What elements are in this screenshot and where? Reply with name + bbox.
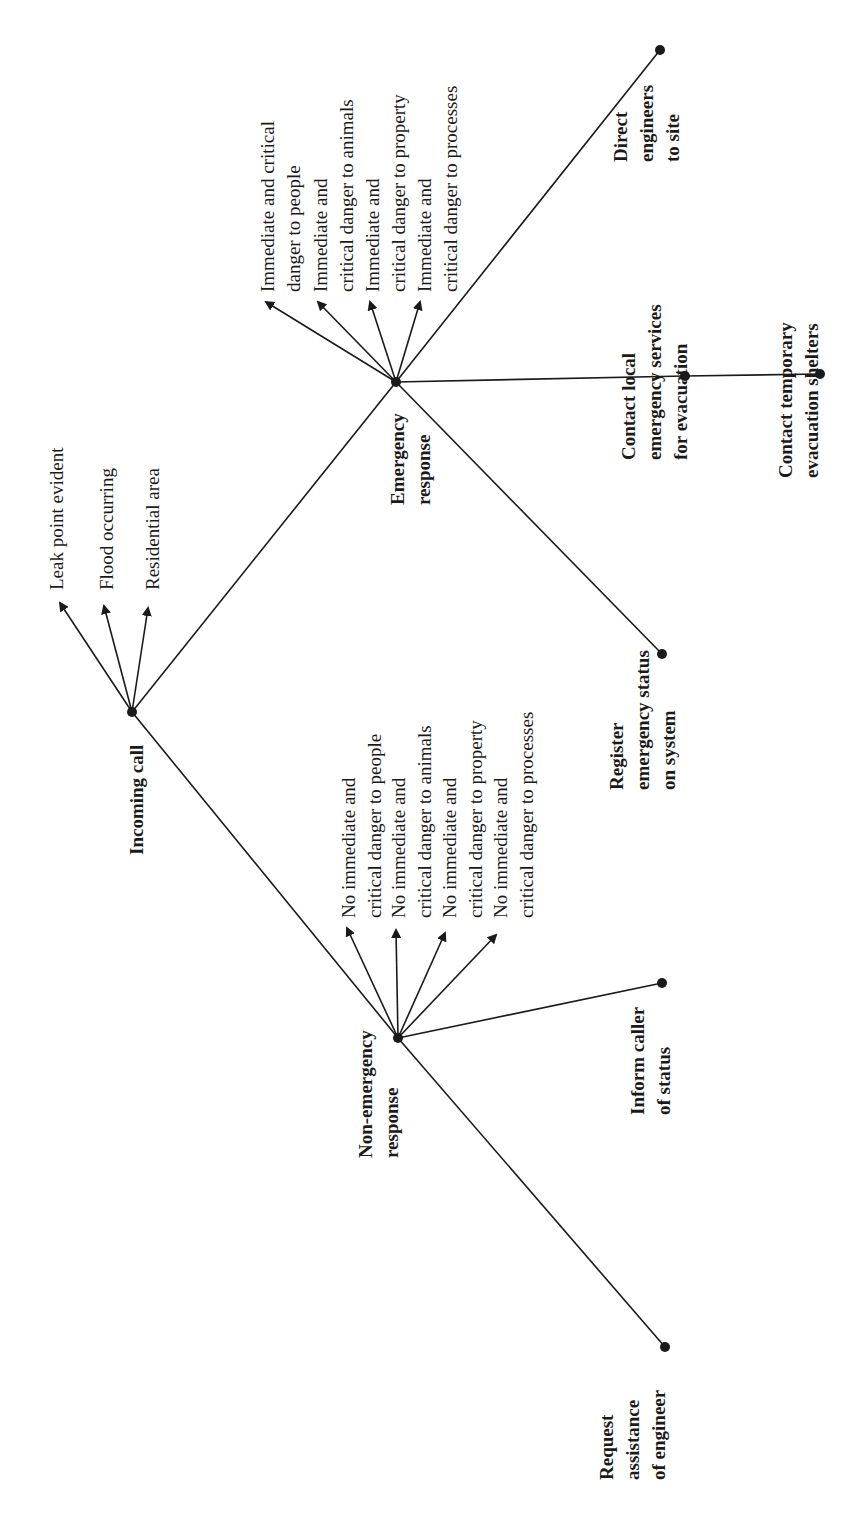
action-contact-shelters: Contact temporary evacuation shelters xyxy=(773,322,825,478)
emergency-condition-people: Immediate and critical danger to people xyxy=(255,121,307,292)
action-direct-engineers: Direct engineers to site xyxy=(608,85,686,162)
node-emergency xyxy=(391,377,401,387)
node-label-non-emergency: Non-emergency response xyxy=(353,1030,405,1158)
action-contact-local-services: Contact local emergency services for eva… xyxy=(616,304,694,460)
nonemergency-condition-animals: No immediate and critical danger to anim… xyxy=(386,725,438,918)
action-register-status: Register emergency status on system xyxy=(604,650,682,790)
nonemergency-condition-people: No immediate and critical danger to peop… xyxy=(336,734,388,918)
node-label-emergency: Emergency response xyxy=(385,413,437,505)
emergency-condition-processes: Immediate and critical danger to process… xyxy=(412,86,464,292)
node-label-incoming-call: Incoming call xyxy=(124,745,150,855)
condition-residential: Residential area xyxy=(140,468,166,590)
node-incoming-call xyxy=(127,707,137,717)
edge-root-emergency xyxy=(132,382,396,712)
condition-leak-point: Leak point evident xyxy=(44,448,70,590)
condition-flood: Flood occurring xyxy=(94,468,120,590)
action-request-engineer: Request assistance of engineer xyxy=(594,1390,672,1480)
emergency-condition-animals: Immediate and critical danger to animals xyxy=(308,99,360,292)
emergency-condition-property: Immediate and critical danger to propert… xyxy=(360,94,412,292)
nonemergency-condition-processes: No immediate and critical danger to proc… xyxy=(488,712,540,918)
action-inform-caller: Inform caller of status xyxy=(625,1007,677,1115)
nonemergency-condition-property: No immediate and critical danger to prop… xyxy=(437,720,489,918)
